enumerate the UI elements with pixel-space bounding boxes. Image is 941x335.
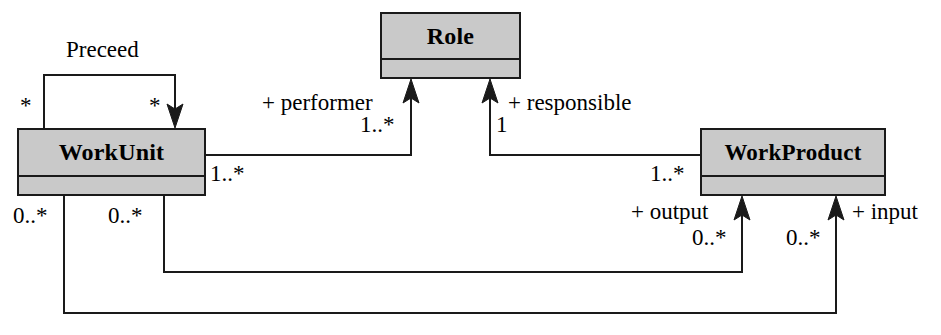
class-box-workproduct[interactable]: WorkProduct <box>700 128 886 196</box>
class-attributes-role <box>382 58 519 77</box>
multiplicity-responsible: 1 <box>496 113 508 136</box>
class-box-role[interactable]: Role <box>380 12 521 79</box>
multiplicity-workunit-input-source: 0..* <box>13 204 48 227</box>
association-label-preceed: Preceed <box>66 38 139 61</box>
class-attributes-workunit <box>19 175 204 194</box>
role-label-responsible: + responsible <box>508 91 631 114</box>
multiplicity-input: 0..* <box>786 226 821 249</box>
multiplicity-preceed-target: * <box>149 94 161 117</box>
role-label-output: + output <box>631 200 709 223</box>
class-box-workunit[interactable]: WorkUnit <box>17 128 206 196</box>
class-attributes-workproduct <box>702 175 884 194</box>
multiplicity-workunit-right: 1..* <box>210 162 245 185</box>
connector-input <box>64 196 844 313</box>
uml-class-diagram: Role WorkUnit WorkProduct Preceed * * + … <box>0 0 941 335</box>
multiplicity-performer: 1..* <box>360 113 395 136</box>
class-name-role: Role <box>382 14 519 58</box>
class-name-workunit: WorkUnit <box>19 130 204 175</box>
role-label-performer: + performer <box>262 91 373 114</box>
multiplicity-workunit-output-source: 0..* <box>108 204 143 227</box>
multiplicity-output: 0..* <box>692 226 727 249</box>
class-name-workproduct: WorkProduct <box>702 130 884 175</box>
role-label-input: + input <box>852 200 918 223</box>
connector-preceed <box>44 75 183 128</box>
multiplicity-preceed-source: * <box>20 94 32 117</box>
multiplicity-workproduct-left: 1..* <box>650 162 685 185</box>
